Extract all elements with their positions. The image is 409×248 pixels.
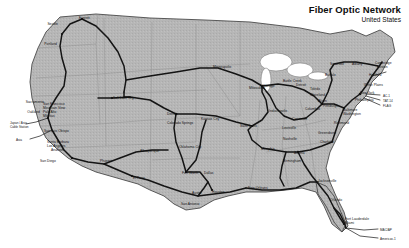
city-label: Salt Lake City — [113, 97, 134, 101]
city-label: San Luis Obispo — [44, 130, 69, 134]
city-label: Albuquerque — [140, 150, 159, 154]
city-label: Saint Louis — [240, 125, 257, 129]
city-label: Louisville — [282, 127, 296, 131]
city-label: Albany — [352, 63, 362, 67]
city-label: Birmingham — [283, 160, 301, 164]
city-label: Miami — [345, 222, 354, 226]
city-label: Chicago — [262, 85, 274, 89]
city-label: Atlanta — [294, 152, 305, 156]
city-label: Oakland — [27, 111, 40, 115]
city-label: Minneapolis — [213, 66, 231, 70]
city-label: Kansas City — [201, 118, 219, 122]
city-label: Buffalo — [325, 74, 336, 78]
city-label: Baltimore — [343, 109, 357, 113]
city-label: Sacramento — [26, 101, 44, 105]
city-label: El Paso — [133, 177, 145, 181]
cable-landing-label: MAC/AP — [380, 229, 392, 233]
cable-landing-label: FLAG — [383, 105, 391, 109]
city-label: Washington — [343, 113, 361, 117]
city-label: Milpitas — [43, 115, 55, 119]
city-label: Greensboro — [318, 132, 336, 136]
map-title-block: Fiber Optic Network United States — [309, 4, 401, 24]
city-label: Columbus — [305, 108, 320, 112]
fiber-optic-network-map: Fiber Optic Network United States Everet… — [0, 0, 409, 248]
city-label: Cleveland — [310, 94, 325, 98]
city-label: Detroit — [296, 84, 306, 88]
city-label: Fort Worth — [182, 172, 198, 176]
city-label: San Diego — [40, 160, 56, 164]
city-label: Philadelphia — [355, 99, 374, 103]
city-label: White Plains — [364, 84, 383, 88]
city-label: Phoenix — [100, 160, 112, 164]
city-label: Seattle — [47, 23, 58, 27]
city-label: Memphis — [261, 148, 275, 152]
city-label: New York — [360, 92, 374, 96]
city-label: Houston — [212, 191, 225, 195]
city-label: Colorado Springs — [167, 122, 193, 126]
city-label: Oklahoma City — [179, 146, 201, 150]
city-label: Cincinnati — [292, 118, 307, 122]
cable-landing-label: Cable Station — [10, 126, 29, 130]
cable-landing-label: Americas-1 — [380, 238, 396, 242]
city-label: Nashville — [283, 138, 297, 142]
cable-landing-label: AC-1 — [383, 95, 390, 99]
city-label: Pittsburgh — [323, 105, 338, 109]
city-label: Indianapolis — [269, 110, 287, 114]
city-label: Portland — [44, 43, 57, 47]
city-label: Jacksonville — [318, 180, 336, 184]
city-label: Everett — [79, 17, 90, 21]
city-label: Dallas — [204, 172, 213, 176]
city-label: Toledo — [310, 88, 320, 92]
city-label: Syracuse — [330, 63, 344, 67]
city-label: Hartford — [369, 74, 381, 78]
city-label: San Antonio — [181, 203, 199, 207]
city-label: Richmond — [334, 122, 349, 126]
city-label: Charlotte — [320, 141, 334, 145]
city-label: Orlando — [330, 199, 342, 203]
cable-landing-label: Asia — [16, 139, 22, 143]
city-label: Boston — [377, 66, 388, 70]
map-subtitle: United States — [309, 16, 401, 24]
city-label: Austin — [192, 192, 201, 196]
city-label: New Orleans — [248, 187, 268, 191]
city-label: Anaheim — [51, 149, 64, 153]
city-label: Denver — [167, 113, 178, 117]
page-title: Fiber Optic Network — [309, 4, 401, 15]
cable-landing-label: TAT-14 — [383, 100, 393, 104]
